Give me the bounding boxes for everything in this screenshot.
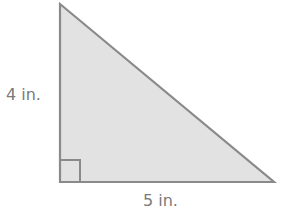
right-triangle <box>60 4 274 182</box>
height-label: 4 in. <box>6 85 41 104</box>
base-label: 5 in. <box>143 191 178 210</box>
triangle-figure <box>0 0 287 212</box>
